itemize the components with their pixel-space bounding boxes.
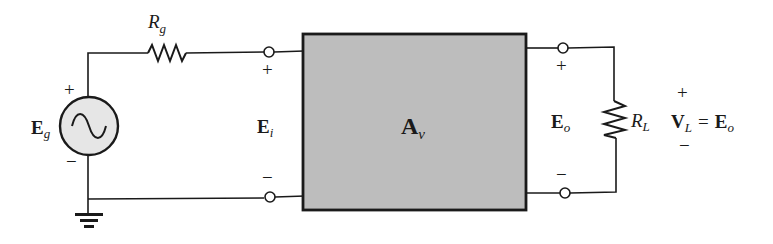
ac-source-icon xyxy=(60,97,118,155)
output-wires xyxy=(526,43,616,198)
source-resistor xyxy=(148,45,264,61)
ground-icon xyxy=(75,213,103,228)
rl-label: RL xyxy=(630,110,650,134)
circuit-diagram: Rg + − Eg + − Ei Av + − Eo RL + − VL=Eo xyxy=(0,0,773,244)
input-plus: + xyxy=(262,59,273,80)
source-minus: − xyxy=(66,151,77,172)
output-minus: − xyxy=(556,164,567,185)
eg-label: Eg xyxy=(31,117,51,141)
vl-minus: − xyxy=(679,135,690,156)
input-minus: − xyxy=(262,167,273,188)
load-resistor xyxy=(604,101,625,138)
eo-label: Eo xyxy=(551,111,571,135)
rg-label: Rg xyxy=(147,11,167,36)
source-plus: + xyxy=(64,79,75,100)
output-plus: + xyxy=(556,55,567,76)
vl-equation: VL=Eo xyxy=(671,111,734,135)
vl-plus: + xyxy=(677,82,688,103)
ei-label: Ei xyxy=(257,116,274,140)
